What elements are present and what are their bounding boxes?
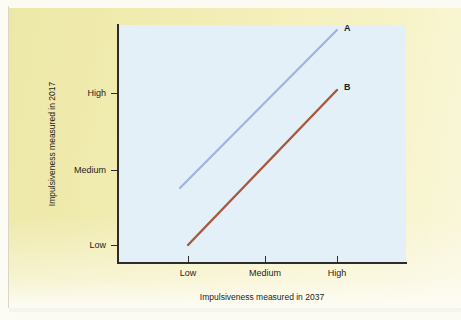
x-tick-low xyxy=(188,256,189,264)
x-tick-label-high: High xyxy=(328,268,347,278)
y-tick-low xyxy=(111,245,119,246)
y-tick-label-high: High xyxy=(87,88,106,98)
series-label-a: A xyxy=(344,23,351,33)
series-label-b: B xyxy=(344,82,351,92)
x-axis-title: Impulsiveness measured in 2037 xyxy=(118,292,406,302)
x-tick-label-low: Low xyxy=(180,268,197,278)
y-axis-title: Impulsiveness measured in 2017 xyxy=(47,82,57,206)
x-axis-line xyxy=(117,262,407,264)
plot-area xyxy=(118,25,406,263)
y-tick-label-low: Low xyxy=(89,240,106,250)
figure-root: High Medium Low Low Medium High Impulsiv… xyxy=(0,0,461,320)
x-tick-high xyxy=(337,256,338,264)
y-axis-line xyxy=(117,24,119,264)
y-tick-label-medium: Medium xyxy=(74,165,106,175)
page-gutter-rule xyxy=(8,6,9,308)
y-tick-high xyxy=(111,93,119,94)
y-tick-medium xyxy=(111,170,119,171)
x-tick-label-medium: Medium xyxy=(249,268,281,278)
x-tick-medium xyxy=(265,256,266,264)
